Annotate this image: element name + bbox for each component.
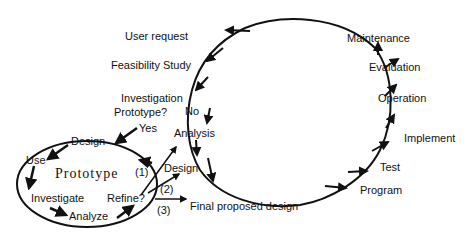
label-branch-2: (2) xyxy=(160,184,173,195)
main-cycle-path xyxy=(188,19,391,206)
label-investigation: Investigation xyxy=(121,93,183,104)
label-no: No xyxy=(185,106,199,117)
label-feasibility-study: Feasibility Study xyxy=(111,60,191,71)
label-branch-3: (3) xyxy=(157,205,170,216)
label-evaluation: Evaluation xyxy=(369,62,420,73)
label-proto-design: Design xyxy=(71,136,105,147)
label-final-proposed-design: Final proposed design xyxy=(190,201,298,212)
label-yes: Yes xyxy=(139,123,157,134)
label-proto-investigate: Investigate xyxy=(31,193,84,204)
label-proto-use: Use xyxy=(26,155,46,166)
label-prototype-center: Prototype xyxy=(55,167,118,181)
label-user-request: User request xyxy=(125,31,188,42)
label-operation: Operation xyxy=(378,93,426,104)
label-design-main: Design xyxy=(164,163,198,174)
label-proto-refine: Refine? xyxy=(107,193,145,204)
label-proto-analyze: Analyze xyxy=(69,211,108,222)
label-branch-1: (1) xyxy=(135,167,148,178)
label-analysis: Analysis xyxy=(174,128,215,139)
label-test: Test xyxy=(380,162,400,173)
label-program: Program xyxy=(360,185,402,196)
label-prototype-question: Prototype? xyxy=(114,107,167,118)
label-implement: Implement xyxy=(404,133,455,144)
sdlc-diagram: User request Feasibility Study Investiga… xyxy=(0,0,473,240)
label-maintenance: Maintenance xyxy=(347,33,410,44)
